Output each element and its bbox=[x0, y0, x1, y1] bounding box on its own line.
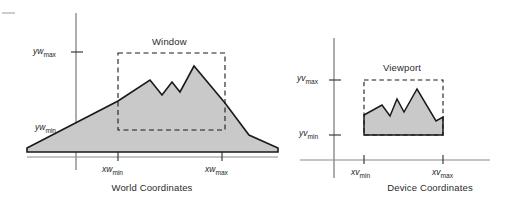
device-x-max-label: xvmax bbox=[432, 167, 453, 179]
device-x-min-label: xvmin bbox=[351, 167, 370, 179]
device-terrain-shape bbox=[364, 89, 443, 135]
device-y-min-label: yvmin bbox=[299, 128, 318, 140]
diagram-canvas bbox=[0, 0, 506, 212]
device-y-max-label: yvmax bbox=[297, 73, 318, 85]
world-terrain-shape bbox=[27, 66, 278, 152]
world-x-max-label: xwmax bbox=[205, 164, 228, 176]
world-y-max-label: ywmax bbox=[33, 46, 56, 58]
figure-container: ywmax ywmin xwmin xwmax Window World Coo… bbox=[0, 0, 506, 212]
device-coordinates-panel bbox=[300, 38, 490, 178]
window-label: Window bbox=[152, 36, 187, 47]
world-x-min-label: xwmin bbox=[102, 164, 123, 176]
world-y-min-label: ywmin bbox=[35, 122, 56, 134]
world-coordinates-caption: World Coordinates bbox=[72, 182, 232, 193]
device-coordinates-caption: Device Coordinates bbox=[350, 182, 506, 193]
viewport-label: Viewport bbox=[383, 62, 421, 73]
